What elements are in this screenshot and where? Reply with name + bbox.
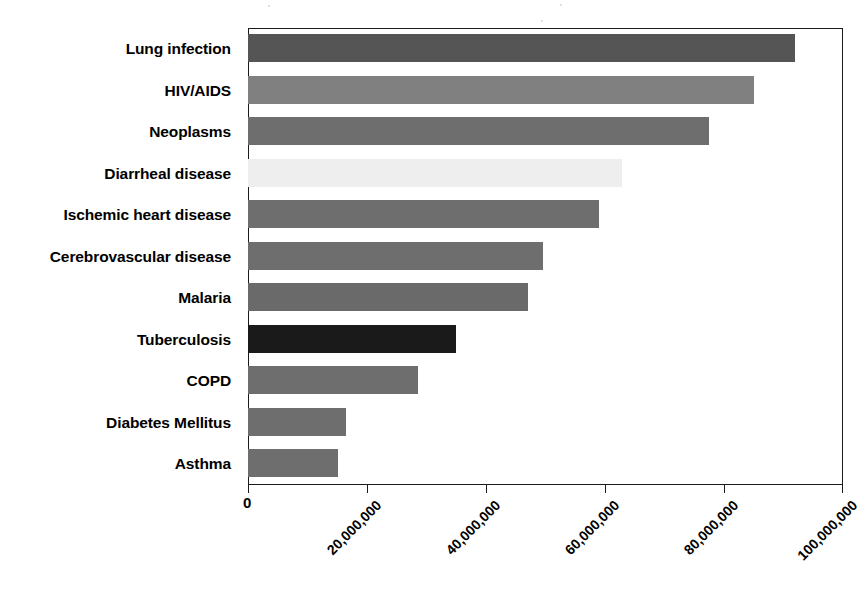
bar-row xyxy=(248,360,843,402)
x-axis-tick-label: 100,000,000 xyxy=(794,497,860,563)
category-axis-labels: Lung infectionHIV/AIDSNeoplasmsDiarrheal… xyxy=(0,28,240,485)
x-axis-tick-label: 40,000,000 xyxy=(442,497,503,558)
category-label: Lung infection xyxy=(0,28,240,70)
x-axis-tick-label: 20,000,000 xyxy=(323,497,384,558)
bar-row xyxy=(248,236,843,278)
bar xyxy=(248,449,338,477)
category-label: Ischemic heart disease xyxy=(0,194,240,236)
x-axis-tick xyxy=(842,485,843,493)
x-axis-tick-label: 80,000,000 xyxy=(680,497,741,558)
bar-chart: Lung infectionHIV/AIDSNeoplasmsDiarrheal… xyxy=(0,0,862,593)
x-axis-tick-label: 0 xyxy=(243,494,251,511)
bar-row xyxy=(248,319,843,361)
bar xyxy=(248,408,346,436)
bar xyxy=(248,366,418,394)
category-label: Neoplasms xyxy=(0,111,240,153)
x-axis-tick xyxy=(367,485,368,493)
bar xyxy=(248,325,456,353)
bar-row xyxy=(248,402,843,444)
category-label: Diarrheal disease xyxy=(0,153,240,195)
x-axis-tick xyxy=(724,485,725,493)
bar xyxy=(248,34,795,62)
bar xyxy=(248,242,543,270)
category-label: Asthma xyxy=(0,443,240,485)
bar xyxy=(248,76,754,104)
scan-artifact xyxy=(268,5,270,7)
category-label: HIV/AIDS xyxy=(0,70,240,112)
bar xyxy=(248,200,599,228)
x-axis-tick xyxy=(486,485,487,493)
bar-row xyxy=(248,194,843,236)
value-axis: 020,000,00040,000,00060,000,00080,000,00… xyxy=(248,485,843,593)
bar xyxy=(248,117,709,145)
bars-layer xyxy=(248,28,843,485)
category-label: COPD xyxy=(0,360,240,402)
bar-row xyxy=(248,28,843,70)
bar-row xyxy=(248,277,843,319)
bar-row xyxy=(248,111,843,153)
scan-artifact xyxy=(541,20,543,22)
bar-row xyxy=(248,70,843,112)
category-label: Cerebrovascular disease xyxy=(0,236,240,278)
category-label: Malaria xyxy=(0,277,240,319)
x-axis-tick xyxy=(248,485,249,493)
bar xyxy=(248,159,622,187)
scan-artifact xyxy=(560,4,562,6)
category-label: Diabetes Mellitus xyxy=(0,402,240,444)
category-label: Tuberculosis xyxy=(0,319,240,361)
x-axis-tick-label: 60,000,000 xyxy=(561,497,622,558)
x-axis-tick xyxy=(605,485,606,493)
bar xyxy=(248,283,528,311)
bar-row xyxy=(248,153,843,195)
bar-row xyxy=(248,443,843,485)
